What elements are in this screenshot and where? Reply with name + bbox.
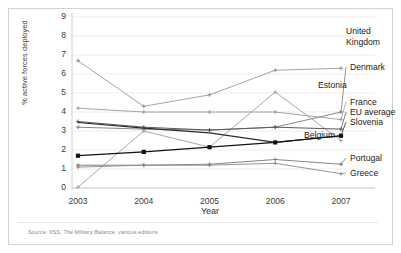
x-axis-title: Year: [140, 206, 280, 216]
data-point: [142, 150, 146, 154]
x-tick-label: 2004: [122, 196, 166, 206]
y-tick-label: 4: [46, 106, 66, 116]
y-tick-label: 5: [46, 87, 66, 97]
chart-figure: % active forces deployed 0123456789 2003…: [0, 0, 401, 253]
series-label-estonia: Estonia: [318, 80, 347, 91]
y-tick-label: 2: [46, 144, 66, 154]
y-tick-label: 7: [46, 49, 66, 59]
series-line-united-kingdom: [78, 61, 341, 107]
y-tick-label: 3: [46, 125, 66, 135]
x-tick-label: 2007: [319, 196, 363, 206]
x-tick-label: 2006: [253, 196, 297, 206]
data-point: [207, 145, 211, 149]
data-point: [273, 140, 277, 144]
source-suffix: , various editions: [115, 229, 158, 235]
y-axis-title: % active forces deployed: [20, 0, 29, 133]
y-tick-label: 1: [46, 163, 66, 173]
source-divider: [18, 222, 378, 223]
x-tick-label: 2005: [188, 196, 232, 206]
series-label-denmark: Denmark: [350, 62, 385, 73]
label-leader: [341, 112, 346, 129]
source-note: Source: IISS, The Military Balance, vari…: [28, 229, 158, 235]
data-point: [76, 154, 80, 158]
series-label-belgium: Belgium: [304, 130, 335, 141]
label-leader: [341, 158, 346, 164]
series-label-france: France: [350, 97, 377, 108]
y-tick-label: 0: [46, 182, 66, 192]
series-label-united-kingdom: UnitedKingdom: [346, 26, 380, 47]
series-label-eu-average: EU average: [350, 107, 395, 118]
series-label-portugal: Portugal: [350, 153, 382, 164]
x-tick-label: 2003: [56, 196, 100, 206]
label-leader: [341, 173, 346, 174]
y-tick-label: 6: [46, 68, 66, 78]
series-label-greece: Greece: [350, 168, 378, 179]
series-label-slovenia: Slovenia: [350, 117, 383, 128]
source-prefix: Source: IISS,: [28, 229, 63, 235]
y-tick-label: 9: [46, 11, 66, 21]
y-tick-label: 8: [46, 30, 66, 40]
source-publication: The Military Balance: [63, 229, 115, 235]
